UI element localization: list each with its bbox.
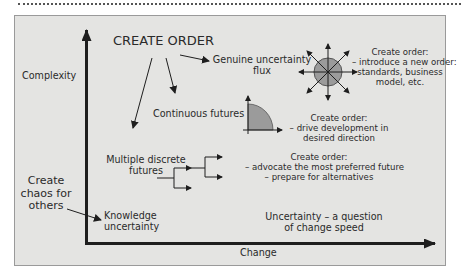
annotation-line: desired direction xyxy=(284,134,394,144)
annotation-line: model, etc. xyxy=(352,78,448,88)
quarter-circle-icon xyxy=(243,96,282,134)
annotation-change-speed: Uncertainty – a question of change speed xyxy=(262,211,386,233)
create-chaos-label: Create chaos for others xyxy=(16,175,76,213)
arrow-to-genuine xyxy=(180,55,209,61)
node-continuous-futures: Continuous futures xyxy=(153,108,244,119)
node-line: Multiple discrete xyxy=(103,154,189,165)
annotation-new-order: Create order: – introduce a new order: s… xyxy=(352,48,448,88)
node-line: Knowledge xyxy=(104,210,159,221)
chaos-line: Create xyxy=(16,175,76,188)
annotation-line: of change speed xyxy=(262,222,386,233)
annotation-drive-development: Create order: – drive development in des… xyxy=(284,114,394,144)
y-axis-label: Complexity xyxy=(22,70,76,81)
node-line: Genuine uncertainty xyxy=(207,54,317,65)
annotation-advocate: Create order: – advocate the most prefer… xyxy=(245,153,393,183)
arrow-to-multiple xyxy=(133,58,152,128)
node-genuine-uncertainty: Genuine uncertainty flux xyxy=(207,54,317,76)
create-order-heading: CREATE ORDER xyxy=(113,34,214,49)
node-line: flux xyxy=(207,65,317,76)
node-knowledge-uncertainty: Knowledge uncertainty xyxy=(104,210,159,232)
arrow-to-continuous xyxy=(166,58,175,93)
node-line: uncertainty xyxy=(104,221,159,232)
annotation-line: – prepare for alternatives xyxy=(245,173,393,183)
annotation-line: Uncertainty – a question xyxy=(262,211,386,222)
x-axis-label: Change xyxy=(240,247,277,258)
chaos-line: others xyxy=(16,200,76,213)
node-line: futures xyxy=(103,165,189,176)
node-multiple-discrete-futures: Multiple discrete futures xyxy=(103,154,189,176)
